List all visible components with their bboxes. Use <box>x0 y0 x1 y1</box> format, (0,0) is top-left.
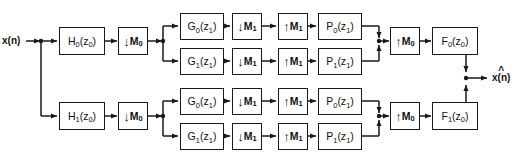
block-decimator-M1-branch3[interactable]: ↓M1 <box>232 123 262 150</box>
up-arrow-icon: ↑ <box>395 34 402 47</box>
block-H0-label: H <box>68 35 76 47</box>
down-arrow-icon: ↓ <box>123 109 130 122</box>
input-label: x(n) <box>2 36 20 46</box>
hat-accent: ^ <box>492 66 510 76</box>
up-arrow-icon: ↑ <box>283 95 290 108</box>
block-H0[interactable]: H0(z0) <box>59 27 105 55</box>
output-label: ^ x(n) <box>492 73 510 83</box>
down-arrow-icon: ↓ <box>237 130 244 143</box>
block-expander-M1-branch1[interactable]: ↑M1 <box>278 48 308 75</box>
filter-bank-diagram: x(n) ^ x(n) H0(z0) H1(z0) ↓M0 ↓M0 G0(z1)… <box>0 0 532 155</box>
block-G0-branch2[interactable]: G0(z1) <box>180 88 224 115</box>
block-decimator-M1-branch1[interactable]: ↓M1 <box>232 48 262 75</box>
block-expander-M0-top[interactable]: ↑M0 <box>390 27 420 55</box>
block-decimator-M1-branch0[interactable]: ↓M1 <box>232 13 262 40</box>
up-arrow-icon: ↑ <box>395 109 402 122</box>
block-F1[interactable]: F1(z0) <box>432 102 478 130</box>
block-decimator-M1-branch2[interactable]: ↓M1 <box>232 88 262 115</box>
block-G1-branch3[interactable]: G1(z1) <box>180 123 224 150</box>
up-arrow-icon: ↑ <box>283 130 290 143</box>
block-expander-M1-branch3[interactable]: ↑M1 <box>278 123 308 150</box>
block-P0-branch2[interactable]: P0(z1) <box>318 88 362 115</box>
down-arrow-icon: ↓ <box>123 34 130 47</box>
diagram-wires <box>0 0 532 155</box>
down-arrow-icon: ↓ <box>237 20 244 33</box>
block-P1-branch3[interactable]: P1(z1) <box>318 123 362 150</box>
block-expander-M0-bottom[interactable]: ↑M0 <box>390 102 420 130</box>
block-H1-label: H <box>68 110 76 122</box>
block-P1-branch1[interactable]: P1(z1) <box>318 48 362 75</box>
block-expander-M1-branch0[interactable]: ↑M1 <box>278 13 308 40</box>
block-P0-branch0[interactable]: P0(z1) <box>318 13 362 40</box>
down-arrow-icon: ↓ <box>237 55 244 68</box>
up-arrow-icon: ↑ <box>283 20 290 33</box>
up-arrow-icon: ↑ <box>283 55 290 68</box>
block-decimator-M0-top[interactable]: ↓M0 <box>118 27 148 55</box>
block-F0[interactable]: F0(z0) <box>432 27 478 55</box>
block-G0-branch0[interactable]: G0(z1) <box>180 13 224 40</box>
down-arrow-icon: ↓ <box>237 95 244 108</box>
block-G1-branch1[interactable]: G1(z1) <box>180 48 224 75</box>
block-H0-sub: 0 <box>76 40 80 49</box>
block-expander-M1-branch2[interactable]: ↑M1 <box>278 88 308 115</box>
block-decimator-M0-bottom[interactable]: ↓M0 <box>118 102 148 130</box>
block-H1[interactable]: H1(z0) <box>59 102 105 130</box>
